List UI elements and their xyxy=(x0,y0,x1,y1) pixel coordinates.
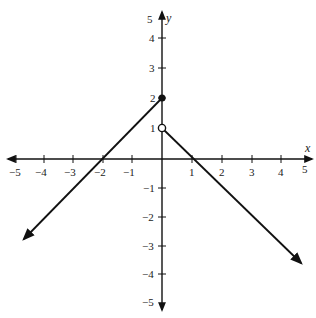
piecewise-graph: −5 −4 −3 −2 −1 1 2 3 4 5 x 5 4 3 2 1 −1 … xyxy=(0,0,316,318)
svg-text:4: 4 xyxy=(278,166,284,178)
svg-text:−2: −2 xyxy=(94,166,106,178)
svg-text:−4: −4 xyxy=(35,166,47,178)
svg-text:−2: −2 xyxy=(142,211,154,223)
svg-text:4: 4 xyxy=(149,32,155,44)
svg-text:−3: −3 xyxy=(142,240,154,252)
svg-text:1: 1 xyxy=(150,122,156,134)
svg-text:−4: −4 xyxy=(142,268,154,280)
y-axis-label: y xyxy=(165,11,172,25)
y-tick-labels: 5 4 3 2 1 −1 −2 −3 −4 −5 xyxy=(142,13,156,308)
svg-text:−1: −1 xyxy=(143,182,155,194)
svg-text:−1: −1 xyxy=(123,166,135,178)
svg-text:2: 2 xyxy=(150,92,156,104)
closed-endpoint xyxy=(158,94,165,101)
svg-text:−3: −3 xyxy=(64,166,76,178)
svg-text:1: 1 xyxy=(189,166,195,178)
svg-text:3: 3 xyxy=(249,166,255,178)
svg-text:2: 2 xyxy=(219,166,225,178)
open-endpoint xyxy=(158,124,165,131)
svg-text:3: 3 xyxy=(149,62,155,74)
svg-text:−5: −5 xyxy=(142,296,154,308)
svg-text:5: 5 xyxy=(147,13,153,25)
x-axis-label: x xyxy=(304,141,311,155)
right-piece-line xyxy=(165,131,302,264)
svg-text:−5: −5 xyxy=(9,166,21,178)
svg-text:5: 5 xyxy=(302,163,308,175)
x-tick-labels: −5 −4 −3 −2 −1 1 2 3 4 5 xyxy=(9,163,308,178)
